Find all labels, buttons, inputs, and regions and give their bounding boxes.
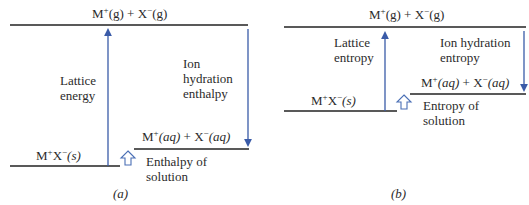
lattice-energy-label: Lattice energy — [60, 73, 96, 103]
gas-ions-label-b: M+(g) + X−(g) — [369, 7, 444, 22]
hydration-enthalpy-label: Ion hydration enthalpy — [183, 56, 233, 101]
gas-ions-label-a: M+(g) + X−(g) — [92, 6, 167, 21]
entropy-of-solution-label: Entropy of solution — [423, 98, 479, 128]
enthalpy-of-solution-label: Enthalpy of solution — [146, 154, 207, 184]
lattice-entropy-label: Lattice entropy — [334, 35, 374, 65]
enthalpy-of-solution-hollow-arrow-icon — [121, 151, 135, 165]
aqueous-label-a: M+(aq) + X−(aq) — [142, 129, 230, 144]
solid-label-a: M+X−(s) — [36, 148, 81, 163]
aqueous-label-b: M+(aq) + X−(aq) — [421, 75, 509, 90]
caption-b: (b) — [391, 186, 406, 201]
solid-label-b: M+X−(s) — [311, 93, 356, 108]
entropy-of-solution-hollow-arrow-icon — [397, 95, 411, 109]
caption-a: (a) — [113, 186, 128, 201]
hydration-entropy-label: Ion hydration entropy — [440, 35, 510, 65]
